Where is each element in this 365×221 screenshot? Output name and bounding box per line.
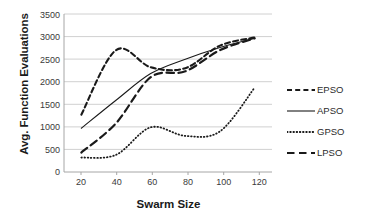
legend-label-lpso: LPSO <box>315 147 342 158</box>
chart-figure: Avg. Function Evaluations 3500 3000 2500… <box>0 0 365 221</box>
series-line-gpso <box>81 88 254 158</box>
series-line-lpso <box>81 38 254 152</box>
legend-swatch-epso <box>287 85 315 95</box>
legend-swatch-gpso <box>287 127 315 137</box>
x-tick: 40 <box>97 177 137 187</box>
legend-swatch-lpso <box>287 148 315 158</box>
series-line-apso <box>81 38 254 128</box>
legend-item-apso: APSO <box>287 100 365 121</box>
legend-item-epso: EPSO <box>287 79 365 100</box>
legend-label-epso: EPSO <box>315 84 343 95</box>
x-tick: 60 <box>132 177 172 187</box>
legend-swatch-apso <box>287 106 315 116</box>
legend-item-lpso: LPSO <box>287 142 365 163</box>
x-axis-title: Swarm Size <box>64 198 273 210</box>
legend-item-gpso: GPSO <box>287 121 365 142</box>
x-tick: 120 <box>239 177 279 187</box>
series-line-epso <box>81 37 254 114</box>
chart-legend: EPSO APSO GPSO LPSO <box>287 79 365 163</box>
legend-label-apso: APSO <box>315 105 343 116</box>
series-lines <box>81 37 254 157</box>
x-tick: 80 <box>168 177 208 187</box>
legend-label-gpso: GPSO <box>315 126 344 137</box>
x-tick: 100 <box>204 177 244 187</box>
x-tick: 20 <box>61 177 101 187</box>
